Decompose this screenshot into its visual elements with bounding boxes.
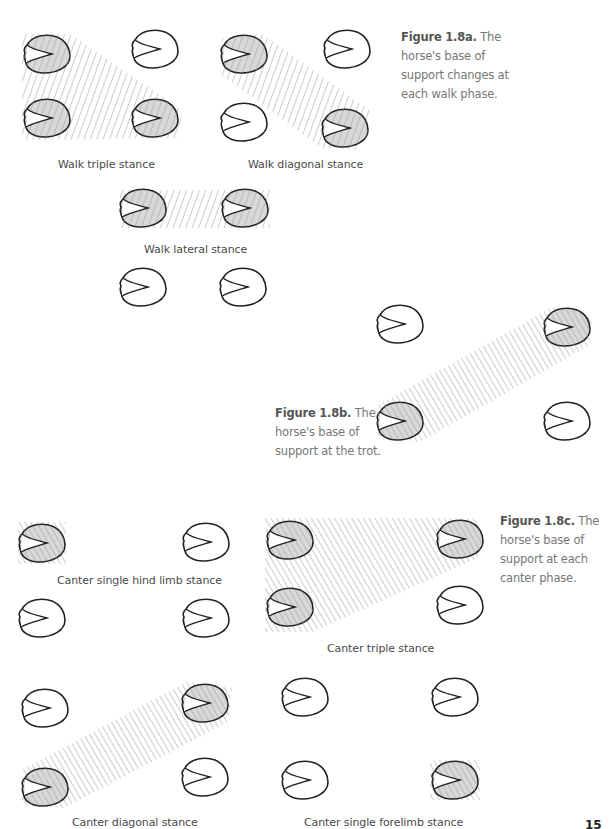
hoof-print-icon — [220, 268, 266, 306]
caption-title: Figure 1.8b. — [275, 406, 351, 420]
hoof-print-icon — [19, 599, 65, 637]
hoof-print-icon — [377, 305, 423, 343]
label-canter-single-hind: Canter single hind limb stance — [57, 574, 222, 587]
hoof-print-shaded-icon — [322, 109, 368, 147]
label-canter-diagonal: Canter diagonal stance — [72, 816, 198, 829]
hoof-print-icon — [183, 523, 229, 561]
hoof-print-shaded-icon — [221, 35, 267, 73]
hoof-print-icon — [120, 268, 166, 306]
hoof-print-icon — [22, 689, 68, 727]
hoof-print-shaded-icon — [267, 588, 313, 626]
hoof-print-shaded-icon — [267, 521, 313, 559]
hoof-print-icon — [282, 678, 328, 716]
caption-title: Figure 1.8c. — [500, 514, 575, 528]
label-canter-single-fore: Canter single forelimb stance — [304, 816, 463, 829]
hoof-print-shaded-icon — [22, 768, 68, 806]
hoof-print-icon — [221, 103, 267, 141]
label-walk-triple: Walk triple stance — [58, 158, 155, 171]
hoof-print-icon — [132, 30, 178, 68]
hoof-print-icon — [324, 30, 370, 68]
hoof-print-icon — [544, 402, 590, 440]
hoof-print-shaded-icon — [132, 99, 178, 137]
hoof-print-icon — [282, 761, 328, 799]
hoof-print-shaded-icon — [544, 308, 590, 346]
hoof-print-icon — [183, 599, 229, 637]
hoof-print-shaded-icon — [24, 99, 70, 137]
hoof-print-shaded-icon — [432, 761, 478, 799]
hoof-print-shaded-icon — [24, 35, 70, 73]
hoof-print-shaded-icon — [19, 524, 65, 562]
label-walk-lateral: Walk lateral stance — [144, 243, 247, 256]
hoof-print-shaded-icon — [437, 520, 483, 558]
caption-figure-1-8a: Figure 1.8a. The horse's base of support… — [401, 28, 511, 104]
hoof-print-shaded-icon — [182, 684, 228, 722]
caption-figure-1-8c: Figure 1.8c. The horse's base of support… — [500, 512, 610, 588]
caption-title: Figure 1.8a. — [401, 30, 477, 44]
hoof-print-shaded-icon — [120, 189, 166, 227]
hoof-print-shaded-icon — [222, 189, 268, 227]
label-canter-triple: Canter triple stance — [327, 642, 434, 655]
page-number: 15 — [585, 818, 602, 829]
label-walk-diagonal: Walk diagonal stance — [248, 158, 363, 171]
caption-figure-1-8b: Figure 1.8b. The horse's base of support… — [275, 404, 385, 461]
hoof-print-icon — [437, 586, 483, 624]
hoof-print-icon — [182, 758, 228, 796]
hoof-print-icon — [432, 678, 478, 716]
